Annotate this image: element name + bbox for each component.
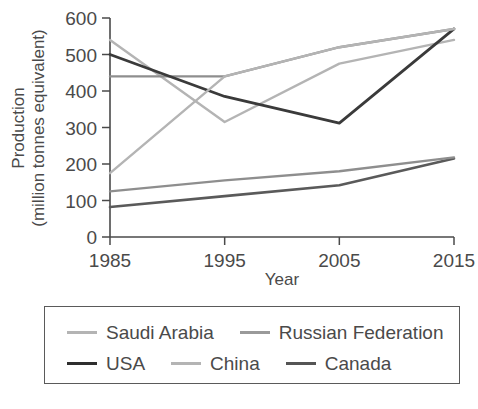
x-tick-label: 1985 <box>89 250 131 271</box>
series-line-russian-federation <box>110 157 454 191</box>
legend-row: USAChinaCanada <box>67 348 459 379</box>
legend-label: USA <box>106 354 145 373</box>
chart-plot-area: Production (million tonnes equivalent) 0… <box>0 0 478 300</box>
legend-label: Canada <box>325 354 392 373</box>
legend-swatch-icon <box>240 331 270 334</box>
y-tick-label: 0 <box>86 227 97 248</box>
y-tick-label: 500 <box>65 45 97 66</box>
y-tick-label: 400 <box>65 81 97 102</box>
y-axis-ticks: 0100200300400500600 <box>65 8 110 248</box>
legend-swatch-icon <box>286 362 316 365</box>
y-tick-label: 200 <box>65 154 97 175</box>
x-tick-label: 2015 <box>433 250 475 271</box>
legend-label: China <box>210 354 260 373</box>
legend-label: Russian Federation <box>279 323 444 342</box>
data-series-group <box>110 29 454 207</box>
series-line-canada <box>110 159 454 208</box>
y-axis-title-line1: Production <box>9 87 28 168</box>
y-tick-label: 300 <box>65 118 97 139</box>
y-axis-title-line2: (million tonnes equivalent) <box>29 29 48 227</box>
x-tick-label: 1995 <box>204 250 246 271</box>
x-tick-label: 2005 <box>318 250 360 271</box>
legend-item-saudi-arabia[interactable]: Saudi Arabia <box>67 323 214 342</box>
x-axis-title: Year <box>265 270 300 289</box>
legend-item-usa[interactable]: USA <box>67 354 145 373</box>
chart-legend: Saudi ArabiaRussian FederationUSAChinaCa… <box>44 306 460 384</box>
legend-swatch-icon <box>67 362 97 365</box>
x-axis-ticks: 1985199520052015 <box>89 237 475 271</box>
line-chart-figure: Production (million tonnes equivalent) 0… <box>0 0 478 409</box>
legend-item-russian-federation[interactable]: Russian Federation <box>240 323 444 342</box>
legend-swatch-icon <box>171 362 201 365</box>
legend-row: Saudi ArabiaRussian Federation <box>67 317 459 348</box>
legend-item-china[interactable]: China <box>171 354 260 373</box>
y-tick-label: 600 <box>65 8 97 29</box>
legend-label: Saudi Arabia <box>106 323 214 342</box>
y-tick-label: 100 <box>65 191 97 212</box>
legend-swatch-icon <box>67 331 97 334</box>
legend-item-canada[interactable]: Canada <box>286 354 392 373</box>
